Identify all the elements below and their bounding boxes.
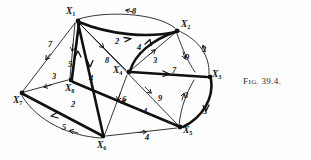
edge-x1-x7 bbox=[23, 23, 75, 91]
edge-weight-x4-x2-thin: 3 bbox=[153, 57, 157, 65]
caption-smallcaps: IG. bbox=[248, 78, 258, 86]
node-dot-x7 bbox=[20, 91, 25, 96]
node-label-x3: X3 bbox=[212, 70, 221, 80]
node-label-x5: X5 bbox=[183, 126, 192, 136]
arrow-x6-x7 bbox=[51, 113, 58, 119]
edge-weight-x1-x2: 2 bbox=[115, 38, 119, 46]
node-dot-x4 bbox=[127, 70, 132, 75]
edge-weight-x6-x7: 2 bbox=[71, 101, 75, 109]
edge-weight-x2-x3: 9 bbox=[185, 54, 189, 62]
node-dot-x5 bbox=[178, 125, 183, 130]
node-dot-x1 bbox=[76, 19, 81, 24]
edge-weight-x8-x1: 4 bbox=[89, 75, 93, 83]
edge-x5-x3 bbox=[179, 80, 194, 125]
edge-weight-x5-x3: 3 bbox=[184, 92, 188, 100]
arrow-x1-x2 bbox=[124, 38, 131, 42]
edge-weight-x1-x8: 5 bbox=[68, 61, 72, 69]
edge-weight-x1-x7: 7 bbox=[48, 41, 52, 49]
edge-weight-x6-x5: 4 bbox=[145, 134, 149, 142]
edge-weight-x1-x4: 8 bbox=[105, 57, 109, 65]
node-dot-x2 bbox=[175, 29, 180, 34]
edge-x3-x5-thick bbox=[183, 79, 211, 127]
figure-39-4: X1 X2 X3 X4 X5 X6 X7 X8 8 2 7 5 4 8 9 4 … bbox=[0, 0, 311, 160]
edge-weight-x8-x7: 3 bbox=[52, 73, 56, 81]
edge-weight-x3-x5: 3 bbox=[203, 108, 207, 116]
figure-caption: FIG. 39.4. bbox=[243, 76, 281, 86]
edge-weight-x7-x6: 5 bbox=[62, 124, 66, 132]
node-label-x2: X2 bbox=[181, 20, 190, 30]
edge-weight-x4-x2-thick: 4 bbox=[137, 44, 141, 52]
node-label-x4: X4 bbox=[113, 66, 122, 76]
edge-weight-x2-x1: 8 bbox=[132, 8, 136, 16]
caption-number: 39.4. bbox=[261, 76, 281, 86]
edge-weight-x3-x2: 3 bbox=[202, 46, 206, 54]
edge-weight-x4-x6: 6 bbox=[122, 96, 126, 104]
node-dot-x6 bbox=[101, 134, 106, 139]
node-label-x7: X7 bbox=[13, 96, 22, 106]
edge-weight-x4-x3: 7 bbox=[172, 67, 176, 75]
node-label-x6: X6 bbox=[97, 141, 106, 151]
edge-x4-x2-thin-arrow bbox=[149, 50, 155, 55]
edge-weight-x5-x8: 4 bbox=[143, 108, 147, 116]
node-label-x1: X1 bbox=[66, 7, 75, 17]
edge-weight-x1-x5: 9 bbox=[158, 95, 162, 103]
node-dot-x8 bbox=[69, 78, 74, 83]
node-label-x8: X8 bbox=[65, 84, 74, 94]
edge-x1-x2-thick bbox=[79, 22, 176, 35]
